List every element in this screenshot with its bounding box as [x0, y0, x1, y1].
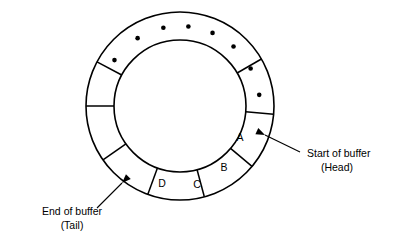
head-annotation-line1: Start of buffer	[307, 147, 371, 159]
segment-label-d: D	[158, 177, 166, 189]
ellipsis-dot	[210, 31, 215, 36]
segment-label-a: A	[236, 131, 243, 143]
ring-buffer-diagram: ABCD Start of buffer(Head)End of buffer(…	[0, 0, 413, 247]
ellipsis-dot	[248, 66, 253, 71]
ellipsis-dot	[231, 44, 236, 49]
tail-annotation-line1: End of buffer	[42, 205, 102, 217]
ellipsis-dot	[135, 36, 140, 41]
ellipsis-dot	[257, 93, 262, 98]
ellipsis-dot	[161, 25, 166, 30]
head-annotation-line2: (Head)	[321, 161, 353, 173]
segment-label-c: C	[193, 178, 201, 190]
ring-diagram-canvas: ABCD Start of buffer(Head)End of buffer(…	[0, 0, 413, 247]
segment-label-b: B	[220, 161, 227, 173]
tail-annotation-line2: (Tail)	[61, 219, 84, 231]
ellipsis-dot	[112, 58, 117, 63]
ellipsis-dot	[186, 24, 191, 29]
